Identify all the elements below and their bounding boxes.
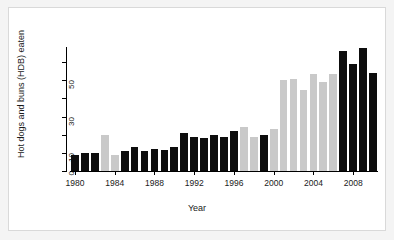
bar	[369, 73, 377, 171]
x-axis-tick	[353, 171, 354, 175]
bar	[290, 79, 298, 171]
x-axis-tick	[154, 171, 155, 175]
x-axis-tick	[115, 171, 116, 175]
bar	[349, 64, 357, 171]
bar	[161, 150, 169, 171]
bar	[111, 155, 119, 171]
bar	[260, 135, 268, 171]
bar	[71, 155, 79, 171]
bar	[91, 153, 99, 171]
bars-plot-area	[70, 44, 378, 171]
bar	[240, 127, 248, 171]
bar	[170, 147, 178, 171]
x-axis-tick-label: 1988	[145, 178, 164, 188]
x-axis-tick-label: 1984	[105, 178, 124, 188]
x-axis-tick-label: 2004	[304, 178, 323, 188]
bar	[101, 135, 109, 171]
x-axis-tick	[313, 171, 314, 175]
bar	[270, 129, 278, 171]
x-axis-tick-label: 2000	[264, 178, 283, 188]
bar	[151, 149, 159, 171]
y-axis-tick	[62, 98, 67, 99]
bar	[250, 137, 258, 171]
y-axis-tick	[62, 62, 67, 63]
bar	[329, 74, 337, 171]
bar	[141, 151, 149, 171]
y-axis-title: Hot dogs and buns (HDB) eaten	[14, 18, 28, 158]
bar	[190, 137, 198, 171]
chart-figure: Hot dogs and buns (HDB) eaten 0103050 19…	[0, 0, 394, 240]
bar	[359, 48, 367, 171]
x-axis-tick-label: 1980	[65, 178, 84, 188]
x-axis-tick	[194, 171, 195, 175]
bar	[200, 138, 208, 171]
x-axis-title: Year	[0, 203, 394, 213]
bar	[300, 90, 308, 171]
bar	[230, 131, 238, 171]
bar	[180, 133, 188, 171]
bar	[280, 80, 288, 171]
x-axis-tick	[75, 171, 76, 175]
bar	[319, 82, 327, 171]
bar	[121, 151, 129, 171]
bar	[310, 74, 318, 171]
x-axis-tick	[234, 171, 235, 175]
bar	[131, 147, 139, 171]
bar	[81, 153, 89, 171]
bar	[220, 137, 228, 171]
x-axis-tick-label: 2008	[344, 178, 363, 188]
x-axis-line	[70, 171, 378, 172]
y-axis-tick	[62, 135, 67, 136]
x-axis-tick-label: 1996	[224, 178, 243, 188]
bar	[339, 51, 347, 171]
x-axis-tick-label: 1992	[185, 178, 204, 188]
x-axis-tick	[274, 171, 275, 175]
bar	[210, 135, 218, 171]
